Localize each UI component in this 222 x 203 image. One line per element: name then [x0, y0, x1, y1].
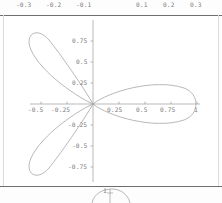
xtick-label-0.25: 0.25: [107, 106, 122, 113]
prev-xtick-0.2: 0.2: [163, 1, 174, 8]
prev-xtick-0.1: 0.1: [136, 1, 147, 8]
ytick-label--0.75: -0.75: [68, 163, 87, 170]
prev-xtick--0.1: -0.1: [76, 1, 91, 8]
xtick-label-0.5: 0.5: [136, 106, 147, 113]
figure-page: -0.3 -0.2 -0.1 0.1 0.2 0.3: [0, 0, 222, 203]
ytick-label--0.5: -0.5: [72, 142, 87, 149]
prev-xtick--0.3: -0.3: [16, 1, 31, 8]
x-tick-marks: [41, 102, 197, 105]
next-figure-fragment: 1: [0, 187, 222, 203]
next-figure-ytick-label-1: 1: [103, 187, 107, 194]
plot-canvas: [4, 16, 218, 186]
xtick-label-0.75: 0.75: [160, 106, 175, 113]
xtick-label-1: 1: [194, 106, 198, 113]
ytick-label--0.25: -0.25: [68, 121, 87, 128]
xtick-label--0.5: -0.5: [28, 106, 43, 113]
prev-xtick-0.3: 0.3: [190, 1, 201, 8]
xtick-label--0.25: -0.25: [51, 106, 70, 113]
ytick-label-0.5: 0.5: [76, 58, 87, 65]
previous-figure-tick-strip: -0.3 -0.2 -0.1 0.1 0.2 0.3: [0, 0, 222, 14]
ytick-label-0.75: 0.75: [72, 37, 87, 44]
ytick-label-0.25: 0.25: [72, 79, 87, 86]
polar-rose-plot: -0.5 -0.25 0.25 0.5 0.75 1 0.75 0.5 0.25…: [4, 16, 218, 186]
page-border-right: [218, 15, 219, 186]
next-figure-arc: [92, 189, 130, 203]
next-figure-canvas: [0, 187, 222, 203]
prev-xtick--0.2: -0.2: [46, 1, 61, 8]
